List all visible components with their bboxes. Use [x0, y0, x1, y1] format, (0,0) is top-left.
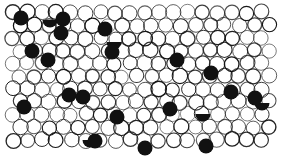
outlined-circle	[180, 4, 195, 19]
black-circle	[41, 53, 56, 68]
outlined-circle	[144, 95, 158, 109]
outlined-circle	[225, 132, 240, 147]
black-circle	[110, 110, 125, 125]
outlined-circle	[247, 43, 261, 57]
outlined-circle	[151, 134, 165, 148]
outlined-circle	[65, 132, 80, 147]
outlined-circle	[108, 82, 122, 96]
outlined-circle	[27, 119, 41, 133]
outlined-circle	[94, 5, 108, 19]
black-circle	[199, 139, 214, 154]
outlined-circle	[254, 133, 268, 147]
outlined-circle	[128, 42, 143, 57]
outlined-circle	[225, 31, 239, 45]
outlined-circle	[101, 95, 116, 110]
outlined-circle	[109, 134, 124, 149]
outlined-circle	[233, 44, 248, 59]
outlined-circle	[63, 108, 77, 122]
outlined-circle	[56, 44, 71, 59]
outlined-circle	[151, 31, 166, 46]
outlined-circle	[35, 82, 50, 97]
outlined-circle	[217, 42, 232, 57]
outlined-circle	[6, 134, 21, 149]
outlined-circle	[166, 5, 181, 20]
outlined-circle	[21, 134, 35, 148]
outlined-circle	[197, 30, 211, 44]
black-circle	[25, 44, 40, 59]
outlined-circle	[248, 18, 262, 32]
outlined-circle	[262, 68, 277, 83]
outlined-circle	[262, 18, 276, 32]
black-circle	[62, 88, 77, 103]
black-circle	[88, 134, 103, 149]
outlined-circle	[35, 132, 50, 147]
outlined-circle	[180, 133, 195, 148]
outlined-circle	[5, 56, 20, 71]
black-circle	[54, 26, 69, 41]
outlined-circle	[231, 69, 245, 83]
outlined-circle	[203, 43, 217, 57]
outlined-circle	[85, 120, 99, 134]
outlined-circle	[129, 68, 143, 82]
outlined-circle	[123, 132, 138, 147]
outlined-circle	[93, 56, 107, 70]
outlined-circle	[79, 106, 93, 120]
outlined-circle	[189, 95, 204, 110]
outlined-circle	[160, 120, 174, 134]
outlined-circle	[5, 31, 19, 45]
outlined-circle	[41, 69, 55, 83]
outlined-circle	[123, 83, 137, 97]
outlined-circle	[34, 30, 49, 45]
outlined-circle	[56, 69, 71, 84]
black-circle	[14, 11, 29, 26]
outlined-circle	[13, 119, 28, 134]
outlined-circle	[27, 70, 41, 84]
outlined-circle	[128, 93, 143, 108]
outlined-circle	[217, 68, 232, 83]
outlined-circle	[48, 133, 63, 148]
outlined-circle	[144, 18, 159, 33]
outlined-circle	[56, 119, 71, 134]
outlined-circle	[254, 55, 269, 70]
black-circle	[138, 141, 153, 156]
outlined-circle	[6, 81, 21, 96]
outlined-circle	[123, 56, 137, 70]
outlined-circle	[239, 132, 253, 146]
outlined-circle	[240, 107, 254, 121]
outlined-circle	[138, 6, 152, 20]
outlined-circle	[86, 69, 100, 83]
black-circle	[204, 66, 219, 81]
black-circle	[224, 85, 239, 100]
outlined-circle	[172, 68, 187, 83]
outlined-circle	[254, 4, 269, 19]
circles-illustration	[0, 0, 285, 157]
outlined-circle	[217, 17, 231, 31]
outlined-circle	[225, 5, 240, 20]
black-circle	[56, 12, 71, 27]
outlined-circle	[262, 120, 276, 134]
outlined-circle	[189, 120, 203, 134]
outlined-circle	[204, 18, 218, 32]
outlined-circle	[240, 55, 255, 70]
outlined-circle	[167, 133, 182, 148]
black-circle	[17, 100, 32, 115]
outlined-circle	[189, 18, 204, 33]
outlined-circle	[165, 83, 179, 97]
black-circle	[98, 22, 113, 37]
outlined-circle	[115, 18, 130, 33]
black-circle	[170, 53, 185, 68]
outlined-circle	[159, 18, 173, 32]
outlined-circle	[159, 68, 173, 82]
outlined-circle	[93, 82, 107, 96]
black-circle	[163, 102, 178, 117]
black-circle	[248, 91, 263, 106]
outlined-circle	[182, 82, 196, 96]
black-circle	[76, 90, 91, 105]
outlined-circle	[225, 107, 239, 121]
outlined-circle	[240, 30, 254, 44]
outlined-circle	[174, 119, 189, 134]
black-circle	[105, 45, 120, 60]
